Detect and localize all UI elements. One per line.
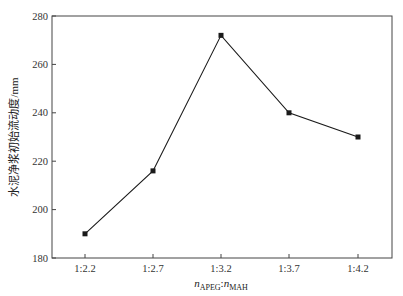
data-point-marker [287, 110, 292, 115]
x-axis: 1:2.21:2.71:3.21:3.71:4.2 [74, 254, 368, 274]
y-tick-label: 220 [32, 156, 48, 167]
y-axis-label: 水泥净浆初始流动度/mm [7, 77, 20, 197]
x-tick-label: 1:4.2 [347, 263, 368, 274]
x-tick-label: 1:3.2 [210, 263, 231, 274]
x-tick-label: 1:3.7 [278, 263, 299, 274]
y-tick-label: 180 [32, 253, 48, 264]
y-tick-label: 260 [32, 59, 48, 70]
y-tick-label: 280 [32, 11, 48, 22]
y-tick-label: 240 [32, 107, 48, 118]
data-point-marker [151, 168, 156, 173]
data-series [83, 33, 361, 236]
data-point-marker [219, 33, 224, 38]
y-tick-label: 200 [32, 204, 48, 215]
data-point-marker [83, 231, 88, 236]
line-chart: 180200220240260280 1:2.21:2.71:3.21:3.71… [0, 0, 403, 296]
x-axis-label: nAPEG:nMAH [194, 277, 248, 292]
x-tick-label: 1:2.2 [74, 263, 95, 274]
plot-frame [52, 16, 392, 258]
x-tick-label: 1:2.7 [142, 263, 163, 274]
series-line [85, 35, 358, 233]
data-point-marker [356, 135, 361, 140]
